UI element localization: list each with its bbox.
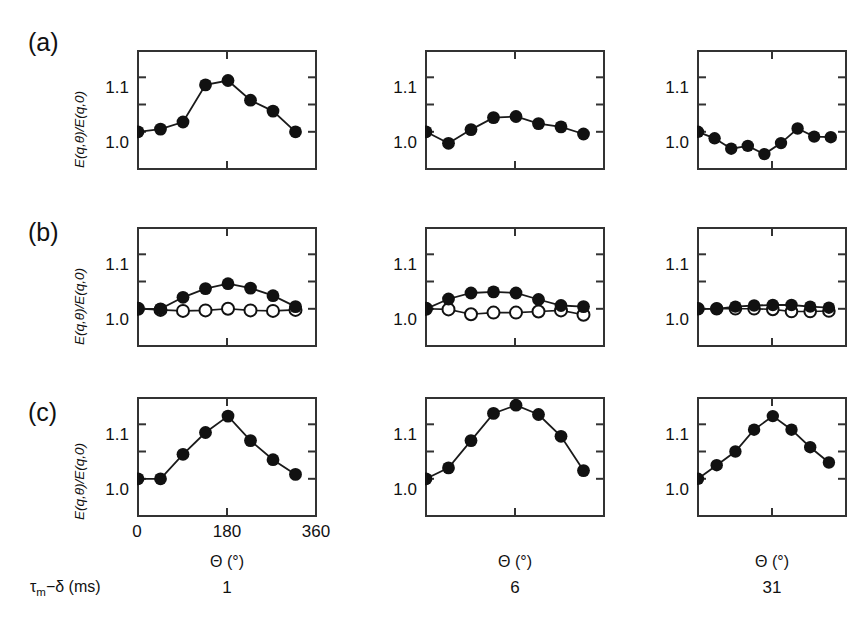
y-tick-1.0-b3: 1.0 [645,310,689,330]
y-tick-1.1-a3: 1.1 [645,78,689,98]
panel-label-a: (a) [28,28,59,57]
y-tick-1.1-b3: 1.1 [645,255,689,275]
plot-panel-a-3 [697,50,847,170]
plot-svg-c-2 [425,397,605,517]
y-tick-1.0-a3: 1.0 [645,133,689,153]
y-axis-label-b: E(q,θ)/E(q,0) [72,268,87,345]
y-tick-1.1-a2: 1.1 [373,78,417,98]
column-value-2: 6 [485,578,545,598]
x-tick-360-c1: 360 [286,522,346,542]
panel-label-c: (c) [28,398,57,427]
x-axis-title-c3: Θ (°) [722,553,822,571]
param-suffix: −δ (ms) [46,578,101,595]
y-tick-1.1-a1: 1.1 [85,78,129,98]
plot-panel-c-3 [697,397,847,517]
x-tick-180-c1: 180 [197,522,257,542]
y-tick-1.1-c2: 1.1 [373,425,417,445]
plot-panel-b-3 [697,227,847,347]
plot-svg-c-3 [697,397,847,517]
plot-svg-b-3 [697,227,847,347]
plot-panel-a-1 [137,50,317,170]
plot-svg-a-2 [425,50,605,170]
plot-panel-a-2 [425,50,605,170]
y-tick-1.0-c3: 1.0 [645,480,689,500]
plot-panel-c-1 [137,397,317,517]
plot-frame [426,51,604,169]
plot-panel-c-2 [425,397,605,517]
x-axis-title-c1: Θ (°) [177,553,277,571]
panel-label-b: (b) [28,218,59,247]
plot-frame [698,228,846,346]
plot-svg-b-2 [425,227,605,347]
y-tick-1.1-c3: 1.1 [645,425,689,445]
plot-frame [698,51,846,169]
y-tick-1.0-b2: 1.0 [373,310,417,330]
plot-frame [138,51,316,169]
column-value-3: 31 [742,578,802,598]
y-tick-1.0-c2: 1.0 [373,480,417,500]
figure-canvas: (a) (b) (c) E(q,θ)/E(q,0) E(q,θ)/E(q,0) … [0,0,863,619]
column-value-1: 1 [197,578,257,598]
plot-svg-c-1 [137,397,317,517]
y-tick-1.1-b2: 1.1 [373,255,417,275]
plot-svg-b-1 [137,227,317,347]
y-tick-1.0-c1: 1.0 [85,480,129,500]
plot-panel-b-1 [137,227,317,347]
y-tick-1.1-c1: 1.1 [85,425,129,445]
plot-panel-b-2 [425,227,605,347]
y-tick-1.0-a1: 1.0 [85,133,129,153]
x-tick-0-c1: 0 [117,522,157,542]
column-parameter-label: τm−δ (ms) [30,578,101,598]
y-tick-1.0-a2: 1.0 [373,133,417,153]
y-axis-label-a: E(q,θ)/E(q,0) [72,91,87,168]
plot-svg-a-3 [697,50,847,170]
y-tick-1.1-b1: 1.1 [85,255,129,275]
x-axis-title-c2: Θ (°) [465,553,565,571]
plot-frame [426,398,604,516]
y-tick-1.0-b1: 1.0 [85,310,129,330]
param-subscript-m: m [36,586,46,598]
plot-svg-a-1 [137,50,317,170]
